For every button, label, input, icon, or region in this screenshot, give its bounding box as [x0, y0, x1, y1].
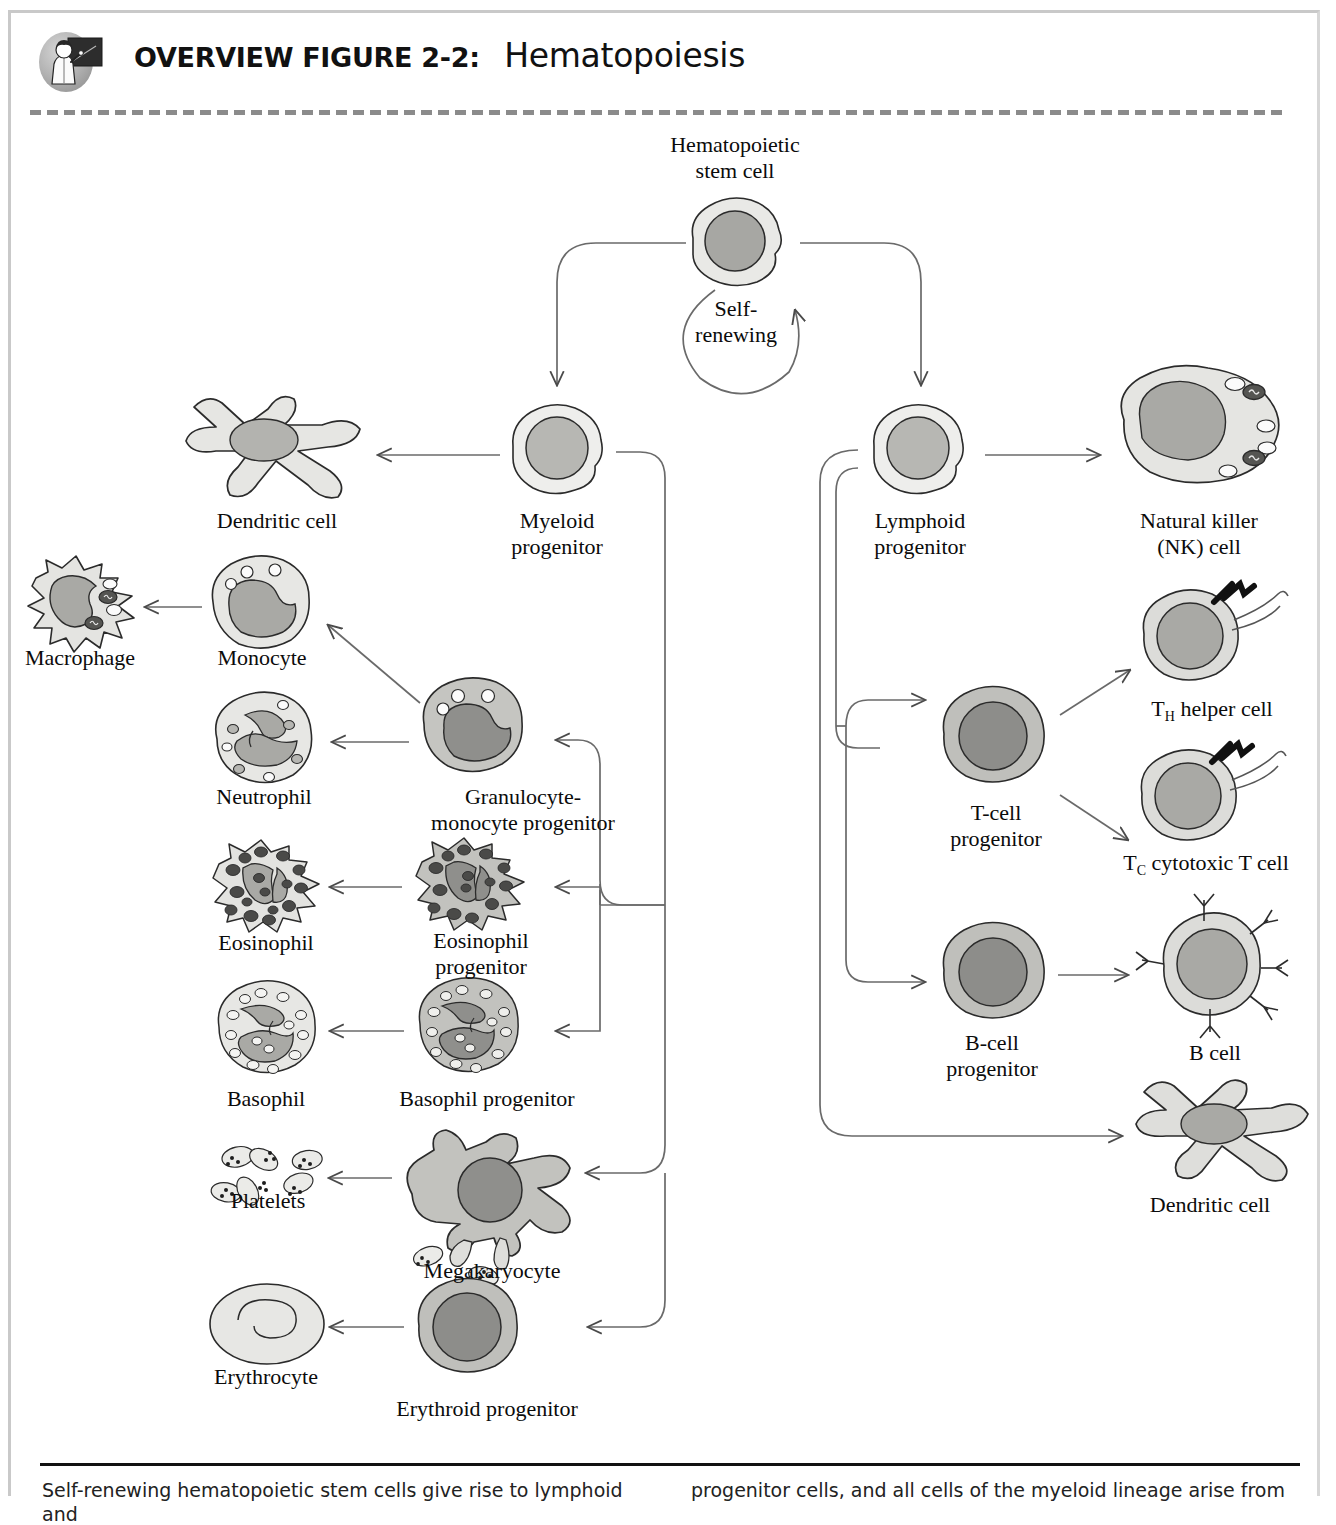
- label-natural-killer-cell: Natural killer (NK) cell: [1096, 508, 1302, 560]
- cell-t-cell-progenitor: [930, 680, 1056, 794]
- label-eosinophil-progenitor: Eosinophil progenitor: [398, 928, 564, 980]
- label-b-cell: B cell: [1150, 1040, 1280, 1066]
- caption-column-right: progenitor cells, and all cells of the m…: [691, 1478, 1296, 1525]
- label-lymphoid-progenitor: Lymphoid progenitor: [840, 508, 1000, 560]
- cell-erythrocyte: [204, 1276, 330, 1372]
- label-granulocyte-monocyte-progenitor: Granulocyte- monocyte progenitor: [378, 784, 668, 836]
- cell-dendritic-lymphoid: [1120, 1068, 1316, 1186]
- label-basophil: Basophil: [188, 1086, 344, 1112]
- cell-erythroid-progenitor: [405, 1272, 529, 1384]
- cell-eosinophil-progenitor: [404, 828, 534, 944]
- cell-natural-killer: [1104, 358, 1290, 492]
- label-platelets: Platelets: [190, 1188, 346, 1214]
- label-monocyte: Monocyte: [184, 645, 340, 671]
- cell-eosinophil: [203, 830, 329, 944]
- cell-basophil-progenitor: [406, 972, 530, 1086]
- cell-hematopoietic-stem-cell: [679, 192, 791, 292]
- caption-column-left: Self-renewing hematopoietic stem cells g…: [42, 1478, 647, 1525]
- cell-myeloid-progenitor: [501, 398, 613, 500]
- cell-dendritic-myeloid: [172, 385, 382, 503]
- label-megakaryocyte: Megakaryocyte: [392, 1258, 592, 1284]
- label-erythrocyte: Erythrocyte: [188, 1364, 344, 1390]
- label-b-cell-progenitor: B-cell progenitor: [912, 1030, 1072, 1082]
- cell-tc-cytotoxic: [1126, 738, 1304, 854]
- cell-neutrophil: [203, 685, 323, 797]
- label-self-renewing: Self- renewing: [681, 296, 791, 348]
- cell-lymphoid-progenitor: [862, 398, 974, 500]
- cell-granulocyte-monocyte-progenitor: [410, 672, 534, 784]
- label-neutrophil: Neutrophil: [186, 784, 342, 810]
- cell-th-helper: [1128, 582, 1304, 694]
- label-hematopoietic-stem-cell: Hematopoietic stem cell: [635, 132, 835, 184]
- label-tc-cytotoxic-t-cell: TC cytotoxic T cell: [1086, 850, 1326, 884]
- label-macrophage: Macrophage: [0, 645, 160, 671]
- label-eosinophil: Eosinophil: [188, 930, 344, 956]
- label-basophil-progenitor: Basophil progenitor: [366, 1086, 608, 1112]
- label-dendritic-cell-myeloid: Dendritic cell: [177, 508, 377, 534]
- figure-caption: Self-renewing hematopoietic stem cells g…: [42, 1478, 1296, 1525]
- label-dendritic-cell-lymphoid: Dendritic cell: [1110, 1192, 1310, 1218]
- cell-b-cell: [1132, 890, 1292, 1044]
- cell-b-cell-progenitor: [930, 916, 1056, 1030]
- label-th-helper-cell: TH helper cell: [1112, 696, 1312, 730]
- label-t-cell-progenitor: T-cell progenitor: [916, 800, 1076, 852]
- label-myeloid-progenitor: Myeloid progenitor: [477, 508, 637, 560]
- cell-monocyte: [199, 550, 321, 660]
- footer-rule: [40, 1463, 1300, 1466]
- cell-basophil: [205, 975, 327, 1087]
- label-erythroid-progenitor: Erythroid progenitor: [362, 1396, 612, 1422]
